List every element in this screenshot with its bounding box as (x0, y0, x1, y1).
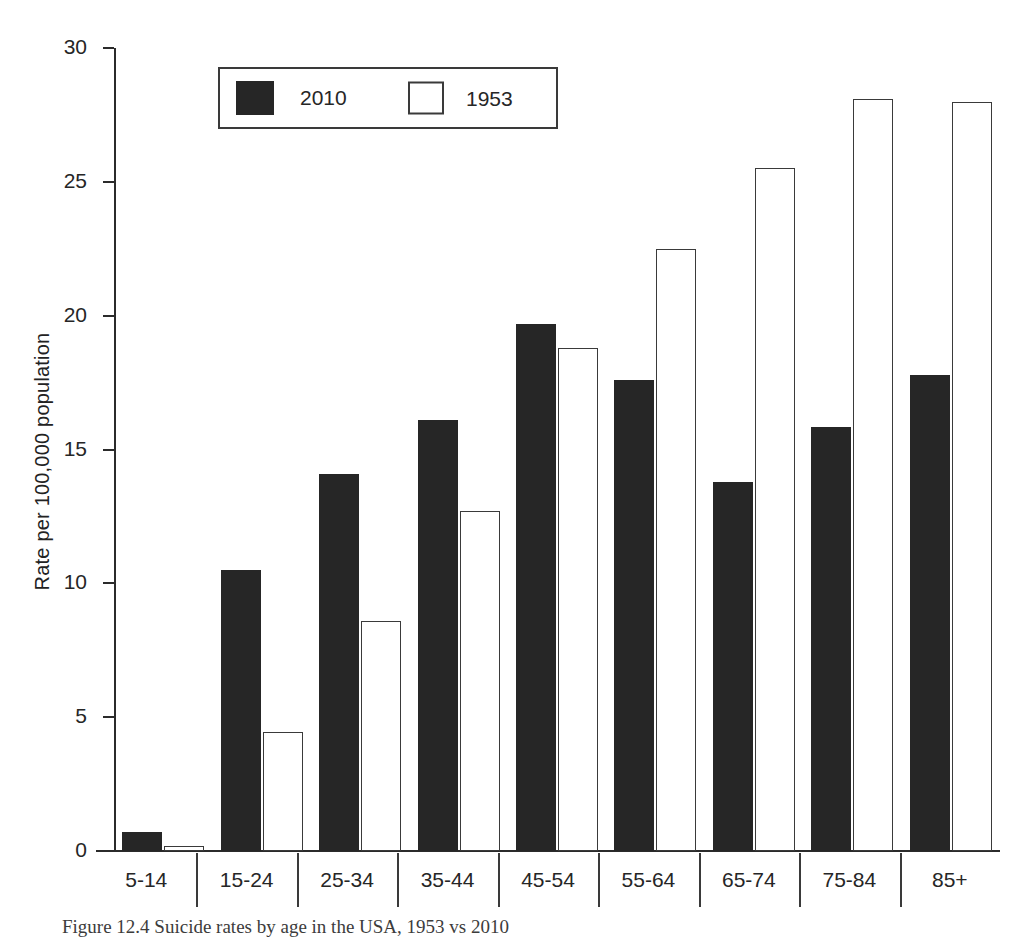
legend-label-1953: 1953 (466, 86, 513, 110)
legend-item-1953: 1953 (408, 82, 513, 115)
y-tick-label-0: 0 (75, 838, 87, 862)
bar-group-85+ (902, 48, 1000, 851)
bar-1953-25-34 (361, 621, 401, 851)
x-axis-label-85+: 85+ (900, 851, 1000, 909)
bar-group-5-14 (114, 48, 212, 851)
bar-group-55-64 (606, 48, 704, 851)
bar-1953-85+ (952, 102, 992, 851)
x-axis-category-labels: 5-1415-2425-3435-4445-5455-6465-7475-848… (96, 851, 1000, 909)
y-tick-30: 30 (103, 47, 114, 49)
x-axis-label-15-24: 15-24 (196, 851, 296, 909)
bar-1953-75-84 (853, 99, 893, 851)
y-tick-15: 15 (103, 449, 114, 451)
x-axis-label-35-44: 35-44 (397, 851, 497, 909)
bar-1953-15-24 (263, 732, 303, 851)
bar-2010-45-54 (516, 324, 556, 851)
bar-group-45-54 (508, 48, 606, 851)
legend-swatch-outline-icon (408, 82, 444, 115)
bar-2010-55-64 (614, 380, 654, 851)
bar-1953-55-64 (656, 249, 696, 851)
x-axis-separator (498, 853, 500, 907)
bar-group-65-74 (705, 48, 803, 851)
x-axis-separator (397, 853, 399, 907)
x-axis-separator (900, 853, 902, 907)
bar-2010-5-14 (122, 832, 162, 851)
legend-item-2010: 2010 (236, 81, 347, 115)
y-tick-label-10: 10 (64, 570, 87, 594)
y-axis-title: Rate per 100,000 population (31, 252, 54, 672)
x-axis-label-55-64: 55-64 (598, 851, 698, 909)
x-axis-separator (598, 853, 600, 907)
bar-group-75-84 (803, 48, 901, 851)
y-tick-label-15: 15 (64, 437, 87, 461)
plot-area: 051015202530 (114, 48, 1000, 851)
x-axis-separator (699, 853, 701, 907)
y-tick-label-20: 20 (64, 303, 87, 327)
bar-1953-45-54 (558, 348, 598, 851)
bar-groups (114, 48, 1000, 851)
bar-group-35-44 (409, 48, 507, 851)
bar-2010-65-74 (713, 482, 753, 851)
y-tick-25: 25 (103, 181, 114, 183)
x-axis-separator (297, 853, 299, 907)
x-axis-label-5-14: 5-14 (96, 851, 196, 909)
y-tick-10: 10 (103, 582, 114, 584)
bar-1953-65-74 (755, 168, 795, 851)
y-tick-20: 20 (103, 315, 114, 317)
x-axis-separator (799, 853, 801, 907)
figure-caption: Figure 12.4 Suicide rates by age in the … (62, 916, 962, 937)
x-axis-label-65-74: 65-74 (699, 851, 799, 909)
bar-2010-25-34 (319, 474, 359, 851)
bar-1953-35-44 (460, 511, 500, 851)
x-axis-label-45-54: 45-54 (498, 851, 598, 909)
y-tick-label-30: 30 (64, 35, 87, 59)
bar-group-15-24 (212, 48, 310, 851)
x-axis-label-75-84: 75-84 (799, 851, 899, 909)
x-axis-separator (196, 853, 198, 907)
chart-legend: 2010 1953 (218, 67, 558, 129)
figure-container: Rate per 100,000 population 051015202530… (0, 0, 1010, 937)
bar-2010-15-24 (221, 570, 261, 851)
legend-swatch-filled-icon (236, 81, 274, 115)
x-axis-label-25-34: 25-34 (297, 851, 397, 909)
bar-group-25-34 (311, 48, 409, 851)
legend-label-2010: 2010 (300, 86, 347, 110)
bar-2010-75-84 (811, 427, 851, 851)
y-tick-5: 5 (103, 716, 114, 718)
bar-2010-85+ (910, 375, 950, 851)
y-tick-label-25: 25 (64, 169, 87, 193)
bar-2010-35-44 (418, 420, 458, 851)
y-tick-label-5: 5 (75, 704, 87, 728)
